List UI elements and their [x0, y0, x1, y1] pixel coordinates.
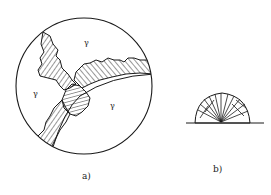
phase-label-gamma-top: γ — [84, 39, 89, 47]
phase-label-gamma-right: γ — [110, 102, 115, 110]
precipitate-upper-branch — [38, 32, 76, 90]
panel-b-label: b) — [213, 165, 222, 174]
precipitate-right-branch — [74, 58, 154, 88]
phase-label-gamma-left: γ — [33, 90, 38, 98]
precipitate-lower-branch — [30, 100, 70, 156]
panel-b-colony — [186, 93, 264, 123]
panel-a-label: a) — [82, 172, 91, 181]
diagram-canvas — [0, 0, 271, 195]
